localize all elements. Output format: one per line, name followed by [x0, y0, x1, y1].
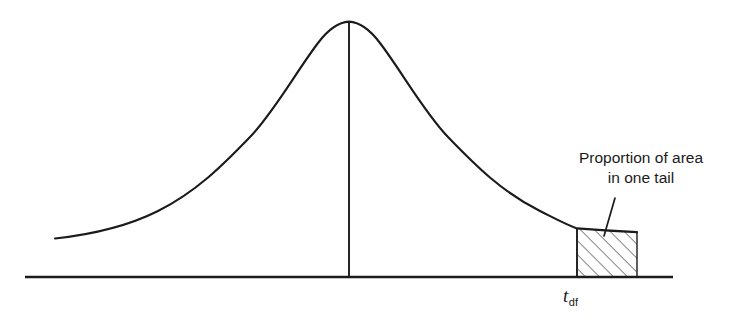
t-variable-symbol: t: [563, 285, 568, 306]
figure-canvas: Proportion of area in one tail tdf: [0, 0, 748, 329]
annotation-line-2: in one tail: [558, 168, 724, 188]
annotation-line-1: Proportion of area: [558, 148, 724, 168]
tail-proportion-annotation: Proportion of area in one tail: [558, 148, 724, 188]
critical-value-label: tdf: [563, 285, 577, 307]
df-subscript: df: [569, 296, 578, 308]
density-curve: [55, 22, 637, 239]
